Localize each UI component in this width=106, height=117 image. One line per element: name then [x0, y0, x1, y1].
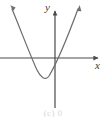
y-axis-label: y	[45, 2, 50, 13]
graph-canvas	[0, 0, 106, 117]
parabola-figure: y x (c) 0	[0, 0, 106, 117]
parabola-left-arrowhead	[10, 5, 15, 11]
parabola-right-arrowhead	[77, 5, 81, 11]
x-axis-label: x	[95, 60, 100, 71]
figure-caption: (c) 0	[0, 109, 106, 117]
parabola-curve	[12, 9, 78, 78]
